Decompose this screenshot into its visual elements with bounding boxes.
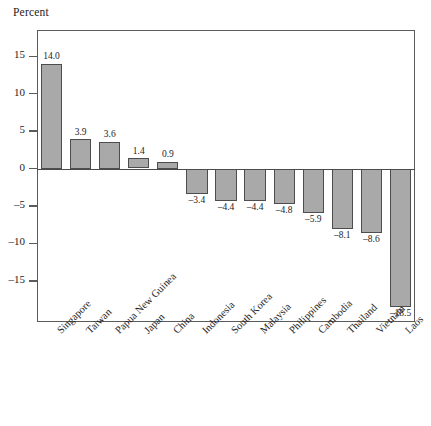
bar-value-label: –4.8	[276, 205, 293, 215]
y-axis-tick-label: 15	[14, 48, 25, 60]
bar-value-label: 0.9	[162, 149, 174, 159]
bar	[361, 169, 382, 233]
y-axis-tick-label: 10	[14, 86, 25, 98]
bar	[99, 142, 120, 169]
y-axis-tick-label: –5	[14, 198, 25, 210]
bar-chart: Percent 151050–5–10–15 14.03.93.61.40.9–…	[0, 0, 431, 426]
y-axis-tick-mark	[29, 93, 37, 94]
y-axis-tick-mark	[29, 168, 37, 169]
bar-value-label: –8.6	[363, 234, 380, 244]
bar	[157, 162, 178, 169]
y-axis-tick-label: –15	[9, 273, 26, 285]
bar	[70, 139, 91, 168]
bar-value-label: 3.6	[104, 129, 116, 139]
bar-value-label: –8.1	[334, 230, 351, 240]
bar	[244, 169, 265, 202]
y-axis-tick-mark	[29, 280, 37, 281]
y-axis-tick-label: 5	[20, 123, 26, 135]
y-axis-tick-label: –10	[9, 235, 26, 247]
bar	[332, 169, 353, 230]
bar-value-label: 3.9	[75, 127, 87, 137]
bar-value-label: –5.9	[305, 214, 322, 224]
bar	[41, 64, 62, 169]
bar	[215, 169, 236, 202]
bar-value-label: 14.0	[43, 51, 60, 61]
bar	[128, 158, 149, 168]
bar-value-label: 1.4	[133, 146, 145, 156]
bar-value-label: –3.4	[189, 195, 206, 205]
y-axis-tick-mark	[29, 56, 37, 57]
y-axis-tick-label: 0	[20, 161, 26, 173]
bar	[390, 169, 411, 308]
bar	[274, 169, 295, 205]
bar	[303, 169, 324, 213]
bar-value-label: –4.4	[218, 202, 235, 212]
bars-layer: 14.03.93.61.40.9–3.4–4.4–4.4–4.8–5.9–8.1…	[37, 30, 415, 322]
y-axis-tick-mark	[29, 130, 37, 131]
y-axis-tick-mark	[29, 205, 37, 206]
bar	[186, 169, 207, 194]
y-axis-tick-mark	[29, 243, 37, 244]
y-axis-title: Percent	[13, 6, 49, 18]
bar-value-label: –4.4	[247, 202, 264, 212]
